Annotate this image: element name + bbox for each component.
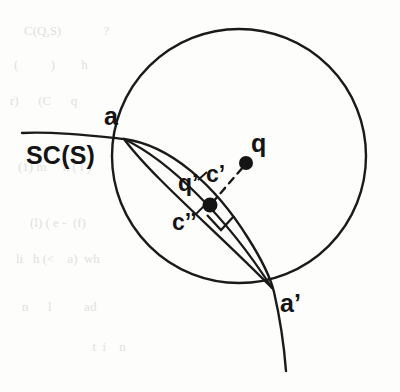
label-sc-curve: SC(S) bbox=[26, 143, 95, 168]
label-point-a-prime: a’ bbox=[280, 291, 301, 316]
main-circle bbox=[112, 29, 366, 283]
label-point-a: a bbox=[104, 104, 118, 129]
point-q-prime-dot bbox=[203, 198, 218, 213]
geometry-figure: C(Q,S) ? ( ) h r) (C q (1) m n ( l ) (l)… bbox=[0, 0, 400, 392]
diagram-canvas bbox=[0, 0, 400, 392]
tick-c-double-prime bbox=[196, 206, 204, 214]
label-point-q-prime: q’ bbox=[178, 172, 198, 195]
point-q-dot bbox=[239, 156, 253, 170]
label-arc-c-prime: c’ bbox=[206, 163, 225, 186]
label-arc-c-double-prime: c’’ bbox=[172, 211, 197, 234]
label-point-q: q bbox=[251, 131, 266, 156]
